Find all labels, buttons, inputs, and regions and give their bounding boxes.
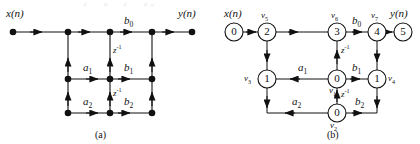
fig-b-delay-2: z-1 (341, 88, 350, 99)
fig-b-node-n4-value: 4 (369, 26, 385, 37)
fig-b-node-n5-value: 5 (395, 26, 411, 37)
fig-b-coeff-a2: a2 (292, 96, 301, 110)
fig-b-vlabel-v6: v6 (331, 11, 338, 22)
fig-b-node-n2-value: 2 (259, 26, 275, 37)
fig-b-caption: (b) (327, 130, 339, 140)
fig-b-output-label: y(n) (390, 8, 408, 19)
fig-b-node-n6-value: 1 (259, 73, 275, 84)
figure-container: z a z a 0 (0, 0, 420, 144)
fig-b-vlabel-v1: v1 (329, 86, 336, 97)
fig-b-input-label: x(n) (224, 8, 242, 19)
fig-b-vlabel-v7: v7 (371, 11, 378, 22)
fig-b-coeff-b2: b2 (355, 96, 364, 110)
fig-b-node-n7-value: 0 (329, 73, 345, 84)
fig-b-node-n3-value: 3 (329, 26, 345, 37)
fig-b-coeff-b0: b0 (352, 15, 361, 29)
fig-b-node-n8-value: 1 (369, 73, 385, 84)
fig-b-vlabel-v4: v4 (388, 74, 395, 85)
fig-b-node-n0-value: 0 (226, 26, 242, 37)
fig-b-vlabel-v5: v5 (261, 11, 268, 22)
fig-b-coeff-a1: a1 (298, 62, 307, 76)
fig-b-delay-1: z-1 (341, 44, 350, 55)
fig-b-node-n9-value: 0 (329, 107, 345, 118)
fig-b-coeff-b1: b1 (352, 62, 361, 76)
fig-b-vlabel-v3: v3 (244, 74, 251, 85)
